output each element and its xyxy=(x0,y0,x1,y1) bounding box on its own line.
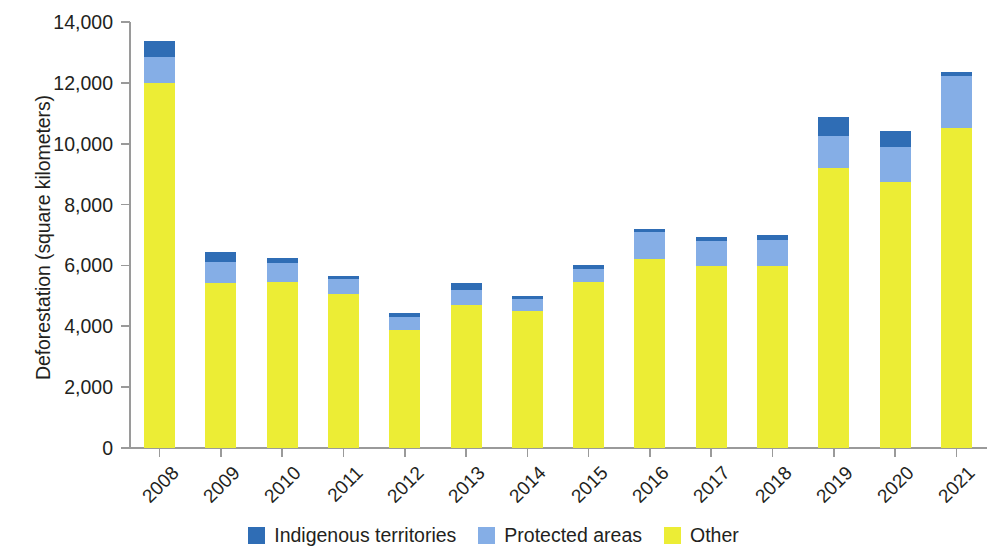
y-axis-tick-label: 14,000 xyxy=(3,11,113,34)
bar-segment-indigenous xyxy=(880,131,911,147)
x-axis-tick-label: 2008 xyxy=(125,462,183,520)
bar-segment-protected xyxy=(757,240,788,266)
x-axis-tick xyxy=(159,448,161,457)
bar-segment-other xyxy=(512,311,543,448)
bar-segment-protected xyxy=(696,241,727,266)
bars-layer xyxy=(129,22,987,448)
bar-segment-protected xyxy=(573,269,604,282)
bar-segment-protected xyxy=(941,76,972,128)
bar-segment-protected xyxy=(634,232,665,259)
bar-stack xyxy=(205,252,236,448)
bar-stack xyxy=(818,117,849,448)
legend-label: Protected areas xyxy=(504,524,642,547)
bar-segment-other xyxy=(634,259,665,448)
legend-item: Protected areas xyxy=(478,524,642,547)
legend-label: Indigenous territories xyxy=(274,524,456,547)
bar-stack xyxy=(328,276,359,448)
bar-stack xyxy=(451,283,482,448)
x-axis-tick-label: 2012 xyxy=(370,462,428,520)
y-axis-tick-label: 2,000 xyxy=(3,376,113,399)
bar-stack xyxy=(267,258,298,448)
bar-segment-protected xyxy=(880,147,911,182)
y-axis-tick-label: 0 xyxy=(3,437,113,460)
bar-stack xyxy=(573,265,604,448)
legend-label: Other xyxy=(690,524,739,547)
x-axis-tick xyxy=(404,448,406,457)
bar-segment-indigenous xyxy=(144,41,175,57)
x-axis-tick xyxy=(343,448,345,457)
x-axis-tick xyxy=(956,448,958,457)
x-axis-tick-label: 2017 xyxy=(677,462,735,520)
x-axis-tick xyxy=(710,448,712,457)
legend-swatch-icon xyxy=(478,527,495,544)
legend-item: Other xyxy=(664,524,739,547)
bar-segment-other xyxy=(205,283,236,448)
bar-segment-other xyxy=(880,182,911,448)
bar-stack xyxy=(757,235,788,448)
bar-stack xyxy=(941,72,972,448)
x-axis-tick-label: 2011 xyxy=(309,462,367,520)
deforestation-stacked-bar-chart: Deforestation (square kilometers) 02,000… xyxy=(0,0,987,553)
bar-segment-protected xyxy=(451,290,482,305)
x-axis-tick-label: 2020 xyxy=(861,462,919,520)
bar-stack xyxy=(880,131,911,448)
bar-segment-other xyxy=(451,305,482,448)
x-axis-tick-label: 2014 xyxy=(493,462,551,520)
x-axis-tick xyxy=(220,448,222,457)
bar-segment-other xyxy=(144,83,175,448)
x-axis-tick xyxy=(649,448,651,457)
bar-segment-indigenous xyxy=(205,252,236,262)
legend-swatch-icon xyxy=(248,527,265,544)
bar-segment-indigenous xyxy=(451,283,482,290)
bar-segment-other xyxy=(757,266,788,448)
x-axis-tick xyxy=(281,448,283,457)
x-axis-tick-label: 2016 xyxy=(615,462,673,520)
bar-segment-other xyxy=(818,168,849,448)
bar-segment-other xyxy=(573,282,604,448)
bar-segment-other xyxy=(267,282,298,448)
legend-swatch-icon xyxy=(664,527,681,544)
y-axis-tick-label: 10,000 xyxy=(3,132,113,155)
bar-segment-protected xyxy=(328,279,359,294)
x-axis-tick-label: 2019 xyxy=(799,462,857,520)
x-axis-tick-label: 2013 xyxy=(432,462,490,520)
bar-segment-protected xyxy=(267,263,298,282)
bar-stack xyxy=(696,237,727,448)
x-axis-tick xyxy=(772,448,774,457)
bar-segment-protected xyxy=(389,317,420,330)
x-axis-tick xyxy=(833,448,835,457)
x-axis-tick-label: 2021 xyxy=(922,462,980,520)
bar-segment-protected xyxy=(512,299,543,311)
bar-stack xyxy=(389,313,420,448)
x-axis-tick xyxy=(588,448,590,457)
y-axis-tick-label: 12,000 xyxy=(3,71,113,94)
chart-legend: Indigenous territoriesProtected areasOth… xyxy=(0,524,987,547)
x-axis-tick xyxy=(527,448,529,457)
bar-segment-other xyxy=(696,266,727,448)
x-axis-tick-label: 2010 xyxy=(248,462,306,520)
bar-stack xyxy=(512,296,543,448)
y-axis-tick-label: 6,000 xyxy=(3,254,113,277)
bar-segment-other xyxy=(941,128,972,448)
legend-item: Indigenous territories xyxy=(248,524,456,547)
y-axis-tick-label: 4,000 xyxy=(3,315,113,338)
y-axis-tick-label: 8,000 xyxy=(3,193,113,216)
bar-stack xyxy=(144,41,175,448)
x-axis-tick-label: 2018 xyxy=(738,462,796,520)
bar-segment-other xyxy=(328,294,359,448)
bar-segment-indigenous xyxy=(818,117,849,136)
x-axis-tick-label: 2009 xyxy=(186,462,244,520)
bar-segment-protected xyxy=(818,136,849,168)
bar-segment-protected xyxy=(144,57,175,83)
bar-stack xyxy=(634,229,665,448)
x-axis-tick xyxy=(894,448,896,457)
x-axis-tick xyxy=(465,448,467,457)
bar-segment-other xyxy=(389,330,420,448)
x-axis-tick-label: 2015 xyxy=(554,462,612,520)
bar-segment-protected xyxy=(205,262,236,283)
